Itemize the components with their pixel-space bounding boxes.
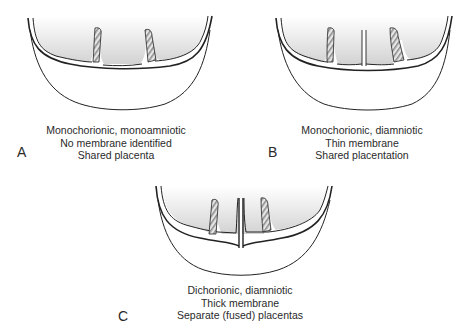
thick-membrane — [239, 198, 243, 248]
caption-line: No membrane identified — [46, 137, 186, 150]
caption-line: Dichorionic, diamniotic — [170, 284, 310, 297]
placenta-diagram-diamniotic-thin — [232, 0, 464, 120]
caption-b: Monochorionic, diamniotic Thin membrane … — [292, 124, 432, 162]
caption-line: Thick membrane — [170, 297, 310, 310]
umbilical-cord-left — [327, 28, 334, 62]
caption-line: Monochorionic, monoamniotic — [46, 124, 186, 137]
panel-c: Dichorionic, diamniotic Thick membrane S… — [140, 170, 340, 333]
panel-label-a: A — [17, 144, 26, 160]
caption-line: Shared placenta — [46, 149, 186, 162]
caption-line: Separate (fused) placentas — [170, 309, 310, 322]
thin-membrane — [362, 30, 366, 66]
caption-a: Monochorionic, monoamniotic No membrane … — [46, 124, 186, 162]
panel-label-c: C — [118, 308, 128, 324]
placenta-diagram-dichorionic — [140, 170, 340, 280]
panel-a: Monochorionic, monoamniotic No membrane … — [0, 0, 232, 170]
caption-line: Thin membrane — [292, 137, 432, 150]
panel-b: Monochorionic, diamniotic Thin membrane … — [232, 0, 464, 170]
caption-line: Monochorionic, diamniotic — [292, 124, 432, 137]
caption-c: Dichorionic, diamniotic Thick membrane S… — [170, 284, 310, 322]
caption-line: Shared placentation — [292, 149, 432, 162]
panel-label-b: B — [268, 144, 277, 160]
placenta-diagram-monoamniotic — [0, 0, 232, 120]
